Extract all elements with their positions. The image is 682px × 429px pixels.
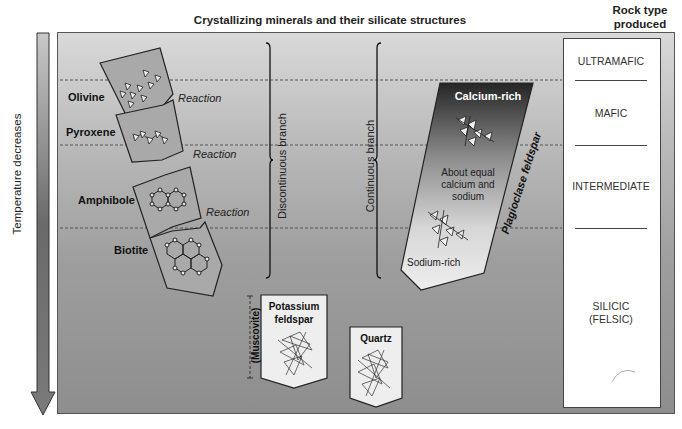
rock-type-silicic: SILICIC (FELSIC)	[563, 300, 659, 326]
pencil-stroke-mark	[610, 360, 640, 385]
rock-divider-3	[575, 228, 647, 229]
rock-type-mafic: MAFIC	[563, 107, 659, 119]
rock-type-intermediate: INTERMEDIATE	[563, 180, 659, 192]
rock-divider-2	[575, 145, 647, 146]
potassium-feldspar-label: Potassium feldspar	[261, 300, 327, 326]
rock-type-column	[563, 38, 661, 408]
rock-type-ultramafic: ULTRAMAFIC	[563, 55, 659, 67]
muscovite-label: (Muscovite)	[250, 286, 261, 386]
quartz-label: Quartz	[350, 333, 402, 344]
rock-divider-1	[575, 80, 647, 81]
